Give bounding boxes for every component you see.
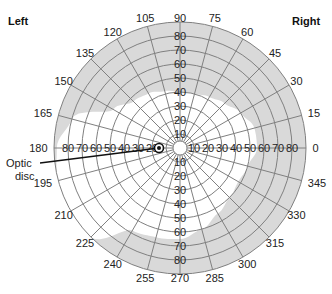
vertical-down-label-50: 50 bbox=[174, 212, 186, 224]
vertical-up-label-50: 50 bbox=[174, 72, 186, 84]
angle-label-60: 60 bbox=[241, 26, 253, 38]
fixation-center bbox=[173, 141, 187, 155]
angle-label-135: 135 bbox=[76, 47, 94, 59]
vertical-down-label-80: 80 bbox=[174, 254, 186, 266]
vertical-down-label-60: 60 bbox=[174, 226, 186, 238]
angle-label-120: 120 bbox=[104, 26, 122, 38]
vertical-down-label-20: 20 bbox=[174, 170, 186, 182]
angle-label-300: 300 bbox=[238, 258, 256, 270]
angle-label-150: 150 bbox=[54, 75, 72, 87]
horizontal-left-label-30: 30 bbox=[132, 142, 144, 154]
horizontal-right-label-70: 70 bbox=[272, 142, 284, 154]
angle-label-225: 225 bbox=[76, 237, 94, 249]
vertical-up-label-80: 80 bbox=[174, 30, 186, 42]
visual-field-chart: 1020304050607080102030405060708010203040… bbox=[0, 0, 332, 294]
angle-label-45: 45 bbox=[269, 47, 281, 59]
vertical-up-label-30: 30 bbox=[174, 100, 186, 112]
angle-label-210: 210 bbox=[54, 209, 72, 221]
horizontal-right-label-30: 30 bbox=[216, 142, 228, 154]
vertical-up-label-10: 10 bbox=[174, 128, 186, 140]
horizontal-left-label-50: 50 bbox=[104, 142, 116, 154]
angle-label-240: 240 bbox=[104, 258, 122, 270]
vertical-down-label-30: 30 bbox=[174, 184, 186, 196]
angle-label-0: 0 bbox=[312, 142, 318, 154]
angle-label-75: 75 bbox=[209, 12, 221, 24]
angle-label-345: 345 bbox=[308, 177, 326, 189]
angle-label-255: 255 bbox=[136, 272, 154, 284]
left-eye-label: Left bbox=[8, 15, 29, 27]
horizontal-right-label-50: 50 bbox=[244, 142, 256, 154]
vertical-up-label-60: 60 bbox=[174, 58, 186, 70]
vertical-up-label-70: 70 bbox=[174, 44, 186, 56]
horizontal-left-label-80: 80 bbox=[62, 142, 74, 154]
vertical-down-label-40: 40 bbox=[174, 198, 186, 210]
angle-label-165: 165 bbox=[34, 107, 52, 119]
horizontal-right-label-80: 80 bbox=[286, 142, 298, 154]
angle-label-195: 195 bbox=[34, 177, 52, 189]
vertical-up-label-20: 20 bbox=[174, 114, 186, 126]
angle-label-15: 15 bbox=[308, 107, 320, 119]
optic-label-line1: Optic bbox=[6, 157, 32, 169]
horizontal-right-label-10: 10 bbox=[188, 142, 200, 154]
horizontal-right-label-40: 40 bbox=[230, 142, 242, 154]
horizontal-left-label-60: 60 bbox=[90, 142, 102, 154]
horizontal-left-label-70: 70 bbox=[76, 142, 88, 154]
optic-disc-dot bbox=[157, 146, 161, 150]
vertical-down-label-10: 10 bbox=[174, 156, 186, 168]
angle-label-285: 285 bbox=[206, 272, 224, 284]
vertical-up-label-40: 40 bbox=[174, 86, 186, 98]
vertical-down-label-70: 70 bbox=[174, 240, 186, 252]
right-eye-label: Right bbox=[292, 15, 320, 27]
horizontal-right-label-20: 20 bbox=[202, 142, 214, 154]
angle-label-90: 90 bbox=[174, 12, 186, 24]
angle-label-270: 270 bbox=[171, 272, 189, 284]
angle-label-330: 330 bbox=[287, 209, 305, 221]
angle-label-105: 105 bbox=[136, 12, 154, 24]
angle-label-315: 315 bbox=[266, 237, 284, 249]
horizontal-right-label-60: 60 bbox=[258, 142, 270, 154]
angle-label-180: 180 bbox=[29, 142, 47, 154]
angle-label-30: 30 bbox=[290, 75, 302, 87]
optic-label-line2: disc bbox=[15, 170, 35, 182]
